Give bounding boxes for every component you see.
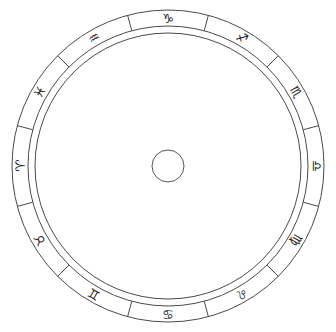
sign-glyph-capricorn: ♑︎ — [162, 11, 174, 26]
sign-glyph-aries: ♈︎ — [13, 160, 28, 172]
sign-divider — [267, 265, 278, 276]
sign-divider — [58, 265, 69, 276]
sign-glyph-cancer: ♋︎ — [162, 307, 174, 322]
sign-divider — [128, 15, 132, 30]
sign-glyph-gemini: ♊︎ — [85, 285, 103, 304]
center-hub — [152, 150, 184, 182]
sign-divider — [303, 202, 318, 206]
sign-glyph-taurus: ♉︎ — [30, 231, 49, 249]
sign-glyph-pisces: ♓︎ — [30, 83, 49, 101]
sign-glyph-libra: ♎︎ — [309, 160, 324, 172]
sign-divider — [17, 202, 32, 206]
sign-glyph-scorpio: ♏︎ — [287, 83, 306, 101]
sign-divider — [58, 56, 69, 67]
sign-divider — [128, 301, 132, 316]
sign-glyph-aquarius: ♒︎ — [85, 28, 103, 47]
sign-glyph-virgo: ♍︎ — [287, 231, 306, 249]
sign-glyph-leo: ♌︎ — [233, 285, 251, 304]
sign-divider — [303, 126, 318, 130]
sign-divider — [17, 126, 32, 130]
sign-divider — [267, 56, 278, 67]
sign-divider — [204, 15, 208, 30]
zodiac-wheel: ♈︎♉︎♊︎♋︎♌︎♍︎♎︎♏︎♐︎♑︎♒︎♓︎ — [0, 0, 336, 332]
sign-divider — [204, 301, 208, 316]
sign-glyph-sagittarius: ♐︎ — [233, 28, 251, 47]
